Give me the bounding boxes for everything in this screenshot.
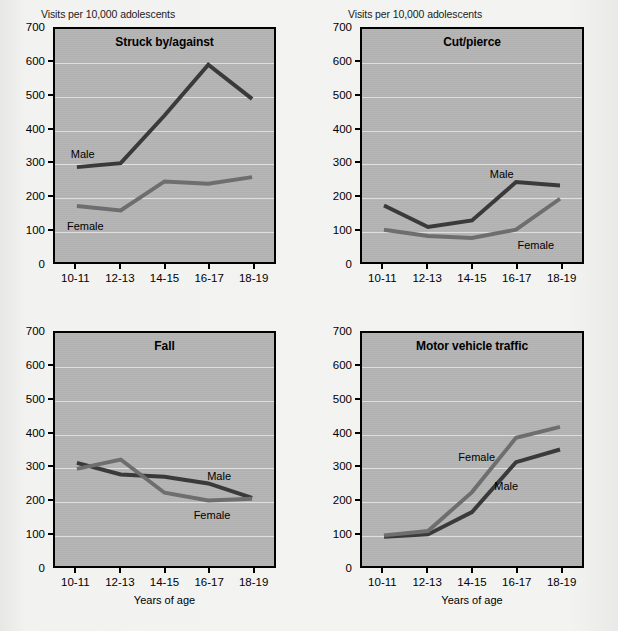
y-axis-tick [48, 229, 53, 231]
x-axis-label: 10-11 [368, 272, 397, 284]
y-axis-label: 0 [7, 562, 45, 574]
x-axis-tick [253, 568, 255, 573]
y-axis-tick [355, 195, 360, 197]
y-axis-label: 200 [7, 190, 45, 202]
x-axis-label: 14-15 [457, 272, 486, 284]
y-axis-tick [355, 499, 360, 501]
y-axis-tick [48, 128, 53, 130]
x-axis-tick [119, 264, 121, 269]
y-axis-label: 0 [7, 258, 45, 270]
y-axis-label: 200 [314, 494, 352, 506]
series-label-female: Female [194, 509, 231, 521]
y-axis-label: 300 [314, 460, 352, 472]
y-axis-label: 300 [7, 460, 45, 472]
y-axis-label: 100 [7, 528, 45, 540]
y-axis-label: 600 [7, 359, 45, 371]
x-axis-label: 18-19 [239, 272, 268, 284]
y-axis-label: 700 [314, 325, 352, 337]
x-axis-label: 12-13 [105, 272, 134, 284]
y-axis-label: 400 [7, 123, 45, 135]
series-label-male: Male [71, 148, 95, 160]
x-axis-tick [208, 568, 210, 573]
y-axis-tick [355, 161, 360, 163]
series-label-female: Female [517, 239, 554, 251]
x-axis-label: 10-11 [61, 272, 90, 284]
y-axis-label: 200 [7, 494, 45, 506]
y-axis-tick [48, 398, 53, 400]
x-axis-tick [426, 264, 428, 269]
x-axis-label: 16-17 [502, 272, 531, 284]
x-axis-label: 12-13 [412, 272, 441, 284]
y-axis-tick [48, 499, 53, 501]
x-axis-label: 16-17 [502, 576, 531, 588]
panel-fall: FallMaleFemale010020030040050060070010-1… [0, 316, 309, 631]
x-axis-tick [471, 264, 473, 269]
panel-motor-vehicle-traffic: Motor vehicle trafficFemaleMale010020030… [309, 316, 618, 631]
series-line-male [384, 182, 560, 227]
x-axis-label: 18-19 [547, 576, 576, 588]
x-axis-tick [561, 264, 563, 269]
x-axis-tick [74, 264, 76, 269]
y-axis-tick [48, 161, 53, 163]
y-axis-tick [355, 364, 360, 366]
series-label-female: Female [67, 220, 104, 232]
x-axis-label: 12-13 [105, 576, 134, 588]
y-axis-label: 0 [314, 258, 352, 270]
y-axis-label: 100 [314, 528, 352, 540]
y-axis-tick [48, 533, 53, 535]
figure-page: Visits per 10,000 adolescentsStruck by/a… [0, 0, 618, 631]
y-axis-label: 700 [7, 325, 45, 337]
y-axis-tick [355, 128, 360, 130]
y-axis-label: 600 [314, 55, 352, 67]
panel-struck-by-against: Visits per 10,000 adolescentsStruck by/a… [0, 0, 309, 316]
y-axis-tick [48, 432, 53, 434]
x-axis-tick [381, 568, 383, 573]
series-label-male: Male [494, 480, 518, 492]
x-axis-tick [471, 568, 473, 573]
y-axis-tick [48, 60, 53, 62]
x-axis-tick [164, 568, 166, 573]
y-axis-label: 500 [7, 393, 45, 405]
y-axis-label: 300 [7, 156, 45, 168]
y-axis-label: 100 [314, 224, 352, 236]
y-axis-label: 500 [7, 89, 45, 101]
y-axis-label: 400 [314, 123, 352, 135]
y-axis-tick [48, 94, 53, 96]
x-axis-tick [74, 568, 76, 573]
series-line-female [384, 427, 560, 536]
y-axis-caption: Visits per 10,000 adolescents [41, 8, 175, 20]
x-axis-label: 10-11 [368, 576, 397, 588]
series-lines [362, 333, 582, 566]
x-axis-label: 12-13 [412, 576, 441, 588]
y-axis-tick [48, 364, 53, 366]
series-label-female: Female [458, 451, 495, 463]
y-axis-tick [48, 195, 53, 197]
x-axis-tick [426, 568, 428, 573]
y-axis-tick [355, 94, 360, 96]
x-axis-label: 14-15 [150, 576, 179, 588]
y-axis-label: 600 [314, 359, 352, 371]
y-axis-label: 700 [314, 21, 352, 33]
panel-grid: Visits per 10,000 adolescentsStruck by/a… [0, 0, 618, 631]
x-axis-tick [164, 264, 166, 269]
y-axis-label: 200 [314, 190, 352, 202]
plot-area: FallMaleFemale [53, 331, 276, 568]
x-axis-caption: Years of age [134, 594, 195, 606]
x-axis-tick [516, 568, 518, 573]
panel-cut-pierce: Visits per 10,000 adolescentsCut/pierceM… [309, 0, 618, 316]
y-axis-tick [355, 432, 360, 434]
y-axis-label: 500 [314, 393, 352, 405]
y-axis-caption: Visits per 10,000 adolescents [348, 8, 482, 20]
series-line-male [77, 65, 252, 168]
y-axis-tick [355, 60, 360, 62]
series-line-female [77, 177, 252, 210]
x-axis-tick [516, 264, 518, 269]
x-axis-tick [561, 568, 563, 573]
y-axis-tick [355, 398, 360, 400]
y-axis-label: 400 [7, 427, 45, 439]
plot-area: Cut/pierceMaleFemale [360, 27, 584, 264]
y-axis-label: 400 [314, 427, 352, 439]
y-axis-label: 100 [7, 224, 45, 236]
x-axis-label: 18-19 [239, 576, 268, 588]
x-axis-tick [208, 264, 210, 269]
